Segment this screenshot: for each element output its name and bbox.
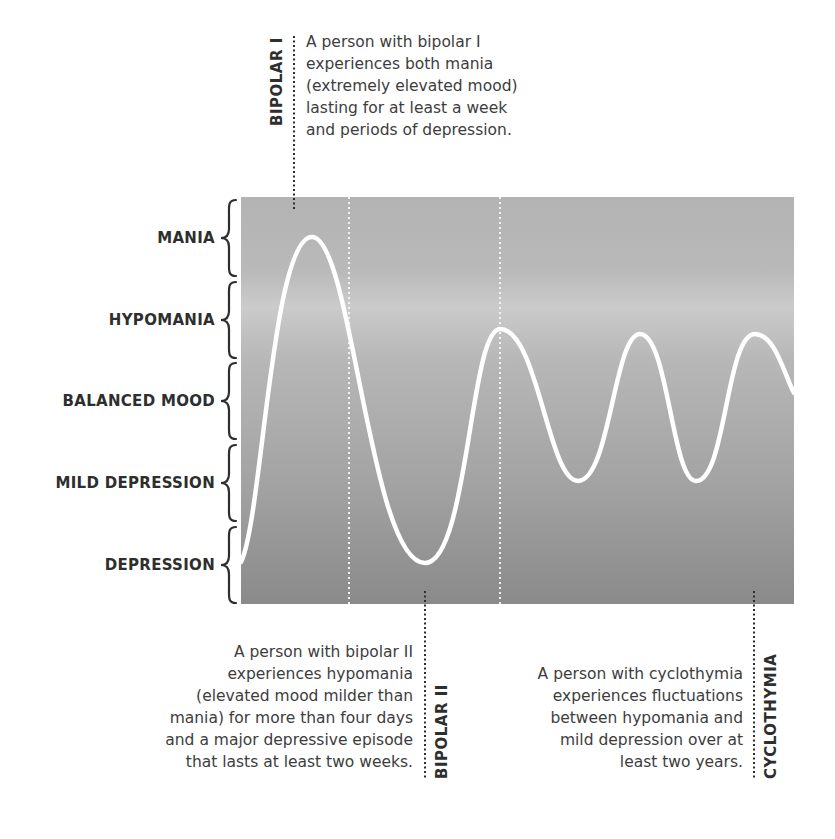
level-label-depression: DEPRESSION [105,556,215,574]
brace-mild-depression [221,445,236,521]
brace-balanced [221,363,236,439]
plot-area [241,197,794,604]
bipolar2-label: BIPOLAR II [433,684,451,779]
level-label-mania: MANIA [157,229,215,247]
cyclothymia-description: A person with cyclothymia experiences fl… [538,663,743,773]
bipolar2-description: A person with bipolar II experiences hyp… [165,641,413,773]
brace-depression [221,527,236,603]
bipolar1-line: and periods of depression. [306,119,518,141]
bipolar2-line: A person with bipolar II [165,641,413,663]
bipolar2-line: that lasts at least two weeks. [165,751,413,773]
cyclothymia-line: between hypomania and [538,707,743,729]
level-label-hypomania: HYPOMANIA [109,311,215,329]
cyclothymia-line: least two years. [538,751,743,773]
cyclothymia-line: mild depression over at [538,729,743,751]
bipolar2-line: mania) for more than four days [165,707,413,729]
bipolar1-line: A person with bipolar I [306,31,518,53]
level-label-balanced-mood: BALANCED MOOD [63,392,215,410]
bipolar2-line: and a major depressive episode [165,729,413,751]
bipolar1-line: experiences both mania [306,53,518,75]
cyclothymia-line: experiences fluctuations [538,685,743,707]
cyclothymia-label: CYCLOTHYMIA [762,654,780,779]
brace-mania [221,200,236,276]
brace-group [221,200,236,603]
level-label-mild-depression: MILD DEPRESSION [55,474,215,492]
bipolar2-line: experiences hypomania [165,663,413,685]
bipolar2-line: (elevated mood milder than [165,685,413,707]
cyclothymia-line: A person with cyclothymia [538,663,743,685]
bipolar1-description: A person with bipolar I experiences both… [306,31,518,141]
bipolar1-line: lasting for at least a week [306,97,518,119]
bipolar1-label: BIPOLAR I [268,37,286,126]
bipolar1-line: (extremely elevated mood) [306,75,518,97]
brace-hypomania [221,282,236,358]
